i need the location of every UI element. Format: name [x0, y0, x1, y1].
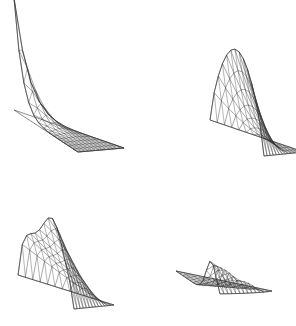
surface-mesh-bottom-right [148, 163, 296, 326]
surface-mesh-top-right [148, 0, 296, 163]
surface-plot-bottom-right [148, 163, 296, 326]
surface-plot-top-left [0, 0, 148, 163]
surface-plot-bottom-left [0, 163, 148, 326]
surface-plot-top-right [148, 0, 296, 163]
surface-mesh-bottom-left [0, 163, 148, 326]
surface-mesh-top-left [0, 0, 148, 163]
figure-canvas [0, 0, 296, 326]
